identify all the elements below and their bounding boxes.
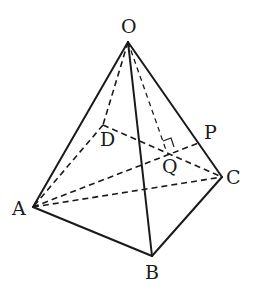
- label-C: C: [226, 166, 241, 188]
- edge-BC: [152, 177, 222, 256]
- pyramid-diagram: O D P Q C A B: [0, 0, 261, 307]
- edge-OD: [103, 42, 128, 125]
- label-P: P: [204, 121, 217, 143]
- label-Q: Q: [162, 155, 178, 177]
- label-A: A: [11, 197, 26, 219]
- label-D: D: [100, 128, 115, 150]
- edge-OB: [128, 42, 152, 256]
- label-O: O: [121, 15, 137, 37]
- label-B: B: [145, 261, 159, 283]
- edge-AC: [33, 177, 222, 207]
- edge-DA: [33, 125, 103, 207]
- edge-AB: [33, 207, 152, 256]
- edge-OA: [33, 42, 128, 207]
